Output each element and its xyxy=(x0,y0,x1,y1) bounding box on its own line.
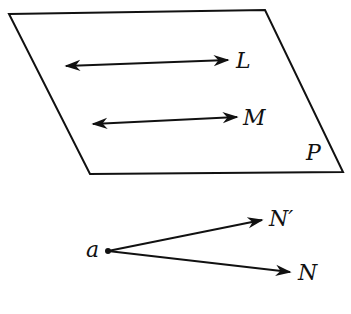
label-n-prime: N′ xyxy=(268,206,293,231)
diagram-svg: L M P a N′ N xyxy=(0,0,351,314)
point-a xyxy=(105,248,111,254)
line-m xyxy=(93,117,237,124)
label-n: N xyxy=(297,260,318,285)
label-p: P xyxy=(305,140,322,165)
diagram-canvas: L M P a N′ N xyxy=(0,0,351,314)
label-l: L xyxy=(235,48,251,73)
line-l xyxy=(66,60,228,66)
label-a: a xyxy=(86,237,99,262)
ray-n xyxy=(108,251,290,272)
ray-n-prime xyxy=(108,220,262,251)
plane-p xyxy=(9,10,343,174)
label-m: M xyxy=(242,105,266,130)
